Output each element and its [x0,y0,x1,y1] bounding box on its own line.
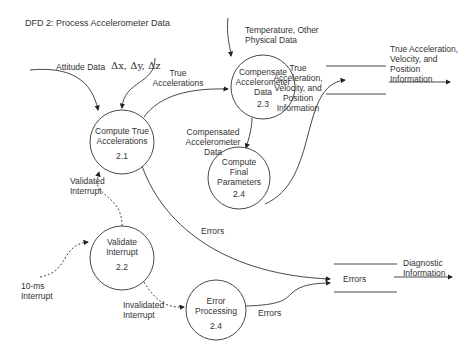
flow-label-tavp: True Acceleration, Velocity, and Positio… [268,63,328,113]
process-2-1-number: 2.1 [92,151,152,161]
flow-label-validated: Validated Interrupt [70,176,105,196]
flow-label-10ms: 10-ms Interrupt [21,281,53,301]
process-2-4a-number: 2.4 [204,189,274,199]
store-errors-label: Errors [343,274,366,284]
process-2-4b-number: 2.4 [186,321,246,331]
flow-compensated[interactable] [246,118,252,148]
flow-10ms-interrupt[interactable] [40,242,88,277]
process-2-2-number: 2.2 [92,262,152,272]
flow-label-errors-24: Errors [258,308,281,318]
flow-label-attitude-data: Attitude Data [56,62,105,72]
flow-label-errors-21: Errors [201,226,224,236]
flow-label-true-accelerations: True Accelerations [148,68,208,88]
flow-label-compensated: Compensated Accelerometer Data [183,127,243,157]
flow-label-temperature: Temperature, Other Physical Data [245,25,319,45]
store-nav-label: True Acceleration, Velocity, and Positio… [390,44,458,84]
process-2-1-label: Compute True Accelerations 2.1 [92,126,152,161]
flow-label-invalidated: Invalidated Interrupt [123,300,164,320]
process-2-2-label: Validate Interrupt 2.2 [92,237,152,272]
process-2-4a-label: Compute Final Parameters 2.4 [204,157,274,199]
flow-true-accelerations[interactable] [144,89,228,117]
flow-temperature[interactable] [227,18,231,56]
flow-attitude-data[interactable] [30,69,98,110]
flow-label-diagnostic: Diagnostic Information [403,258,446,278]
flow-errors-24[interactable] [246,283,330,306]
diagram-title: DFD 2: Process Accelerometer Data [25,18,170,28]
process-2-4b-label: Error Processing 2.4 [186,296,246,331]
